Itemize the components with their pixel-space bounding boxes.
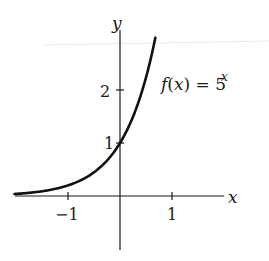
x-axis-label: x [228, 187, 238, 207]
exponential-curve [14, 38, 155, 194]
x-tick-label-minus1: −1 [55, 205, 79, 224]
function-label: f(x) = 5 x [159, 70, 228, 94]
scan-artifact-line [45, 41, 269, 45]
y-axis-label: y [111, 13, 122, 33]
function-name: f(x) = 5 [159, 74, 226, 94]
function-exponent: x [221, 70, 228, 84]
exponential-chart: y x 2 1 −1 1 f(x) = 5 x [0, 0, 269, 261]
x-tick-label-1: 1 [167, 205, 177, 224]
y-tick-label-2: 2 [100, 82, 110, 101]
y-tick-label-1: 1 [104, 134, 114, 153]
